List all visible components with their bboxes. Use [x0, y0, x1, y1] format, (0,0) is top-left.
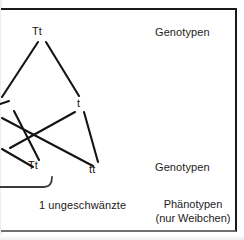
edge-left-to-tt — [2, 118, 93, 166]
node-label-parent-tt: Tt — [32, 25, 42, 37]
figure-canvas: Tt t Tt tt Genotypen Genotypen 1 ungesch… — [0, 0, 244, 240]
node-label-gamete-t: t — [77, 97, 80, 109]
label-phenotypes-title: Phänotypen — [149, 197, 237, 211]
edge-t-to-tt — [84, 112, 98, 162]
label-offspring-count: 1 ungeschwänzte — [39, 199, 126, 211]
node-label-offspring-tt-het: Tt — [28, 159, 38, 171]
edge-parent-to-t — [46, 42, 79, 96]
edge-parent-to-left — [2, 42, 38, 97]
node-label-offspring-tt-hom: tt — [89, 163, 95, 175]
label-phenotypes-note: (nur Weibchen) — [149, 211, 237, 225]
edge-t-to-left-cross — [10, 112, 75, 148]
offspring-bracket — [0, 177, 52, 187]
label-genotypes-top: Genotypen — [155, 26, 210, 38]
edge-left-stub — [0, 101, 9, 104]
label-genotypes-bottom: Genotypen — [155, 161, 210, 173]
